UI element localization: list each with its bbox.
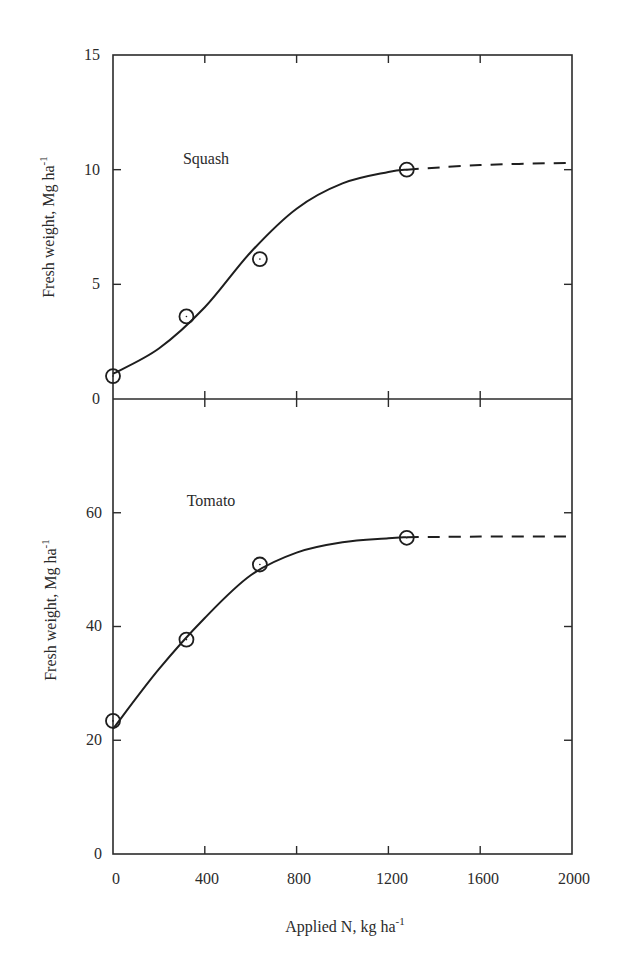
tomato-fitted-curve: [113, 537, 407, 729]
x-axis-title-sup: -1: [396, 915, 405, 927]
squash-y-axis-title-text: Fresh weight, Mg ha: [40, 165, 58, 297]
squash-y-tick-15: 15: [84, 46, 100, 63]
tomato-series: [106, 531, 572, 729]
tomato-y-axis-title-sup: -1: [39, 539, 51, 548]
squash-data-point-center: [406, 169, 408, 171]
chart-svg: 0 5 10 15 0 20 40 60 0 400 800 1200 1600…: [0, 0, 619, 973]
x-tick-800: 800: [287, 870, 311, 887]
squash-data-point-center: [112, 375, 114, 377]
tomato-panel-label: Tomato: [187, 492, 236, 509]
tomato-y-tick-20: 20: [86, 731, 102, 748]
x-tick-2000: 2000: [558, 870, 590, 887]
svg-text:Fresh weight, Mg ha-1: Fresh weight, Mg ha-1: [39, 539, 60, 681]
tomato-data-point-center: [186, 639, 188, 641]
svg-text:Fresh weight, Mg ha-1: Fresh weight, Mg ha-1: [37, 156, 58, 298]
squash-fitted-curve: [113, 170, 407, 374]
tomato-extrapolation-line: [407, 537, 572, 538]
x-tick-labels: 0 400 800 1200 1600 2000: [112, 870, 590, 887]
tomato-data-point-center: [112, 720, 114, 722]
squash-y-axis-title-sup: -1: [37, 156, 49, 165]
x-tick-1200: 1200: [376, 870, 408, 887]
squash-series: [106, 163, 572, 383]
squash-y-tick-labels: 0 5 10 15: [84, 46, 100, 407]
x-tick-400: 400: [195, 870, 219, 887]
tomato-y-tick-60: 60: [86, 504, 102, 521]
tomato-y-tick-0: 0: [94, 845, 102, 862]
x-axis-title-text: Applied N, kg ha: [285, 918, 395, 936]
plot-frame: [113, 55, 572, 854]
squash-y-tick-0: 0: [92, 390, 100, 407]
tomato-y-tick-40: 40: [86, 617, 102, 634]
squash-y-tick-10: 10: [84, 161, 100, 178]
outer-frame: [113, 55, 572, 854]
tomato-data-point-center: [259, 564, 261, 566]
squash-data-point-center: [259, 258, 261, 260]
tomato-y-tick-labels: 0 20 40 60: [86, 504, 102, 862]
x-axis-title: Applied N, kg ha-1: [285, 915, 404, 936]
squash-panel-label: Squash: [183, 150, 229, 168]
squash-extrapolation-line: [407, 163, 572, 170]
squash-data-point-center: [186, 316, 188, 318]
figure: 0 5 10 15 0 20 40 60 0 400 800 1200 1600…: [0, 0, 619, 973]
tick-marks: [113, 55, 572, 854]
tomato-data-point-center: [406, 537, 408, 539]
squash-y-tick-5: 5: [92, 275, 100, 292]
tomato-y-axis-title: Fresh weight, Mg ha-1: [39, 539, 60, 681]
x-tick-0: 0: [112, 870, 120, 887]
squash-y-axis-title: Fresh weight, Mg ha-1: [37, 156, 58, 298]
tomato-y-axis-title-text: Fresh weight, Mg ha: [42, 548, 60, 680]
x-tick-1600: 1600: [467, 870, 499, 887]
